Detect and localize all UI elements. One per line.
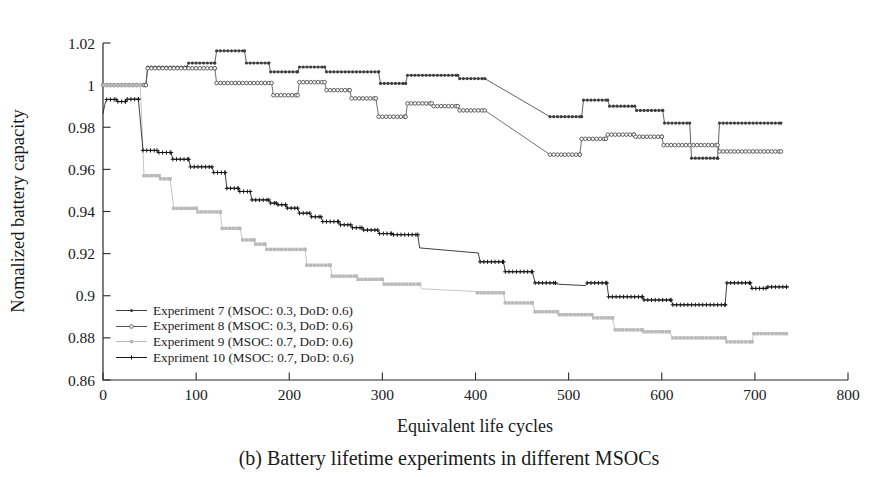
- y-tick-label: 0.86: [68, 372, 95, 389]
- legend-item-label: Expriment 10 (MSOC: 0.7, DoD: 0.6): [153, 350, 354, 366]
- legend: Experiment 7 (MSOC: 0.3, DoD: 0.6)Experi…: [115, 303, 354, 365]
- legend-item-label: Experiment 9 (MSOC: 0.7, DoD: 0.6): [153, 334, 353, 350]
- y-tick-label: 1: [87, 77, 95, 94]
- legend-item-label: Experiment 8 (MSOC: 0.3, DoD: 0.6): [153, 318, 353, 334]
- x-axis-label: Equivalent life cycles: [397, 416, 553, 436]
- y-tick-label: 0.9: [76, 287, 96, 304]
- legend-item-experiment-9: Experiment 9 (MSOC: 0.7, DoD: 0.6): [115, 334, 354, 350]
- y-tick-label: 0.98: [68, 119, 95, 136]
- legend-item-label: Experiment 7 (MSOC: 0.3, DoD: 0.6): [153, 303, 353, 319]
- x-tick-label: 0: [99, 386, 107, 403]
- dot-marker-icon: [115, 305, 149, 316]
- x-tick-label: 300: [371, 386, 395, 403]
- x-tick-label: 600: [650, 386, 674, 403]
- x-tick-label: 100: [185, 386, 209, 403]
- series-line: [103, 99, 787, 305]
- x-tick-label: 500: [557, 386, 581, 403]
- y-tick-label: 0.96: [68, 161, 95, 178]
- y-tick-label: 0.94: [68, 203, 95, 220]
- figure: 1.0210.980.960.940.920.90.880.8601002003…: [0, 0, 895, 477]
- y-axis-label: Nomalized battery capacity: [8, 109, 28, 313]
- x-tick-label: 700: [743, 386, 767, 403]
- legend-item-experiment-7: Experiment 7 (MSOC: 0.3, DoD: 0.6): [115, 303, 354, 319]
- plus-marker-icon: [115, 352, 149, 363]
- circle-marker-icon: [115, 321, 149, 332]
- series-expriment-10: [103, 97, 789, 307]
- x-tick-label: 400: [464, 386, 488, 403]
- y-tick-label: 0.92: [68, 245, 95, 262]
- legend-item-expriment-10: Expriment 10 (MSOC: 0.7, DoD: 0.6): [115, 350, 354, 366]
- figure-caption: (b) Battery lifetime experiments in diff…: [239, 447, 660, 470]
- series-experiment-8: [101, 66, 783, 156]
- y-tick-label: 0.88: [68, 329, 95, 346]
- series-line: [103, 68, 781, 154]
- square-marker-icon: [115, 336, 149, 347]
- x-tick-label: 800: [836, 386, 860, 403]
- x-tick-label: 200: [278, 386, 302, 403]
- chart-svg: 1.0210.980.960.940.920.90.880.8601002003…: [0, 0, 895, 477]
- legend-item-experiment-8: Experiment 8 (MSOC: 0.3, DoD: 0.6): [115, 319, 354, 335]
- y-tick-label: 1.02: [68, 35, 95, 52]
